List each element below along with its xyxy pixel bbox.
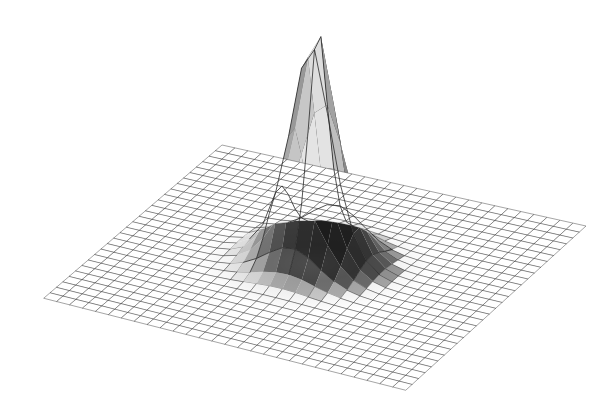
surface-plot-canvas — [0, 0, 607, 412]
surface-plot-figure: Three-dimensional mesh surface plot of a… — [0, 0, 607, 412]
